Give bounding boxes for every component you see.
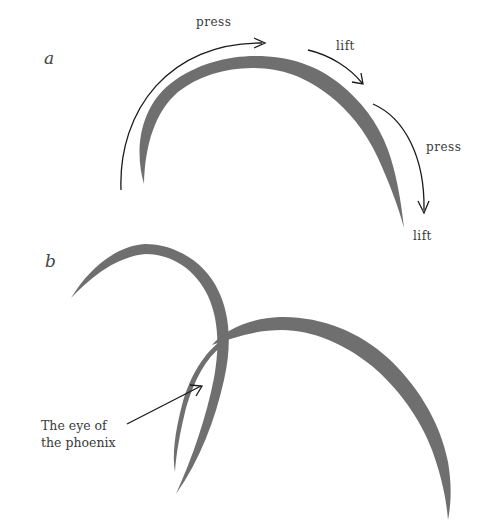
caption-line-2: the phoenix <box>41 434 116 451</box>
eye-pointer-arrow <box>127 386 201 424</box>
annotation-press-1: press <box>196 16 231 28</box>
annotation-press-2: press <box>426 141 461 153</box>
annotation-lift-1: lift <box>336 40 355 52</box>
brush-stroke-diagram: a b press lift press lift The eye of the… <box>0 0 483 526</box>
annotation-lift-2: lift <box>413 230 432 242</box>
caption-line-1: The eye of <box>41 417 116 434</box>
eye-caption: The eye of the phoenix <box>41 417 116 451</box>
panel-label-a: a <box>44 50 54 67</box>
panel-label-b: b <box>45 253 56 270</box>
brush-stroke-b-left-arch <box>71 244 229 494</box>
brush-stroke-a <box>140 56 404 228</box>
brush-stroke-b-right-arch <box>212 317 451 520</box>
